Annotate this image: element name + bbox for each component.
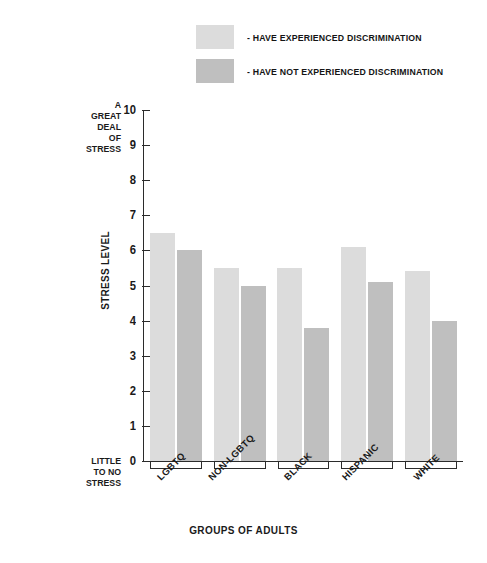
- y-axis-tick-label: 2: [130, 383, 136, 399]
- y-axis-tick-label: 6: [130, 242, 136, 258]
- legend-item: - HAVE EXPERIENCED DISCRIMINATION: [196, 24, 486, 50]
- bar-group: [144, 110, 208, 461]
- y-axis-tick-label: 9: [130, 137, 136, 153]
- legend-label-not-experienced: - HAVE NOT EXPERIENCED DISCRIMINATION: [247, 66, 443, 77]
- y-axis-tick-label: 8: [130, 172, 136, 188]
- bar[interactable]: [150, 233, 175, 461]
- x-axis-group: LGBTQ: [144, 462, 208, 522]
- x-axis-group-labels: LGBTQNON-LGBTQBLACKHISPANICWHITE: [144, 462, 463, 522]
- x-axis-group: BLACK: [272, 462, 336, 522]
- x-axis-group: NON-LGBTQ: [208, 462, 272, 522]
- bar[interactable]: [304, 328, 329, 461]
- y-axis-top-annotation: A GREAT DEAL OF STRESS: [86, 99, 121, 154]
- bar[interactable]: [368, 282, 393, 461]
- y-axis-tick-label: 7: [130, 207, 136, 223]
- bar[interactable]: [341, 247, 366, 461]
- bar-group: [272, 110, 336, 461]
- y-axis-tick-label: 4: [130, 313, 136, 329]
- bar[interactable]: [405, 271, 430, 461]
- plot-area: 10A GREAT DEAL OF STRESS9876543210LITTLE…: [143, 110, 463, 462]
- y-axis-tick-label: 5: [130, 278, 136, 294]
- legend-swatch-experienced: [196, 25, 234, 49]
- legend-swatch-not-experienced: [196, 59, 234, 83]
- y-axis-tick-label: 0: [130, 453, 136, 469]
- legend-label-experienced: - HAVE EXPERIENCED DISCRIMINATION: [247, 32, 422, 43]
- chart-legend: - HAVE EXPERIENCED DISCRIMINATION - HAVE…: [196, 24, 486, 92]
- x-axis-group: WHITE: [399, 462, 463, 522]
- bar-group: [335, 110, 399, 461]
- bar-group: [399, 110, 463, 461]
- x-axis-group: HISPANIC: [335, 462, 399, 522]
- y-axis-tick-label: 1: [130, 418, 136, 434]
- bar[interactable]: [177, 250, 202, 461]
- y-axis-title-text: STRESS LEVEL: [100, 231, 111, 310]
- bar-groups: [144, 110, 463, 461]
- bar-group: [208, 110, 272, 461]
- x-axis-title: GROUPS OF ADULTS: [0, 525, 487, 536]
- y-axis-tick-label: 3: [130, 348, 136, 364]
- bar[interactable]: [277, 268, 302, 461]
- bar[interactable]: [214, 268, 239, 461]
- legend-item: - HAVE NOT EXPERIENCED DISCRIMINATION: [196, 58, 486, 84]
- y-axis-tick-label: 10: [123, 102, 136, 118]
- bar[interactable]: [432, 321, 457, 461]
- y-axis-bottom-annotation: LITTLE TO NO STRESS: [86, 455, 121, 488]
